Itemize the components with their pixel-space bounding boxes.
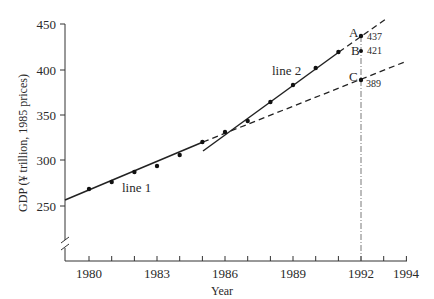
y-tick-350: 350 (37, 108, 57, 123)
point-labels: A B C (349, 25, 360, 84)
y-axis (60, 24, 65, 261)
x-axis-title: Year (211, 284, 233, 298)
point-values: 437 421 389 (366, 31, 382, 89)
label-A: A (349, 25, 359, 40)
point-C (359, 78, 363, 82)
x-tick-1994: 1994 (393, 266, 420, 281)
line-2-label: line 2 (272, 63, 301, 78)
x-tick-1989: 1989 (280, 266, 306, 281)
x-tick-1980: 1980 (76, 266, 102, 281)
point-A (359, 34, 363, 38)
value-A: 437 (367, 31, 382, 42)
x-tick-labels: 1980 1983 1986 1989 1992 1994 (76, 266, 420, 281)
x-axis (65, 256, 407, 261)
x-tick-1986: 1986 (212, 266, 239, 281)
value-B: 421 (367, 45, 382, 56)
value-C: 389 (366, 78, 381, 89)
x-tick-1983: 1983 (144, 266, 170, 281)
line-1-label: line 1 (122, 180, 151, 195)
y-tick-300: 300 (37, 153, 57, 168)
label-B: B (351, 43, 360, 58)
y-tick-400: 400 (37, 63, 57, 78)
gdp-chart: 450 400 350 300 250 1980 1983 1986 1989 … (0, 0, 434, 299)
data-points (87, 50, 341, 191)
x-tick-1992: 1992 (348, 266, 374, 281)
y-tick-labels: 450 400 350 300 250 (37, 17, 57, 214)
y-tick-450: 450 (37, 17, 57, 32)
label-C: C (349, 69, 358, 84)
line-1-extrapolation (203, 61, 407, 142)
y-tick-250: 250 (37, 199, 57, 214)
y-axis-title: GDP (¥ trillion, 1985 prices) (16, 74, 30, 212)
